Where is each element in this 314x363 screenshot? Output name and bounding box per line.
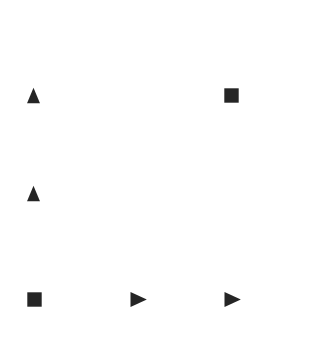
square-marker bbox=[27, 292, 42, 307]
triangle-right-marker bbox=[222, 291, 243, 308]
triangle-up-marker bbox=[25, 87, 42, 104]
triangle-up-marker bbox=[25, 185, 42, 202]
marker-canvas bbox=[0, 0, 314, 363]
triangle-right-marker bbox=[128, 291, 149, 308]
square-marker bbox=[224, 88, 239, 103]
